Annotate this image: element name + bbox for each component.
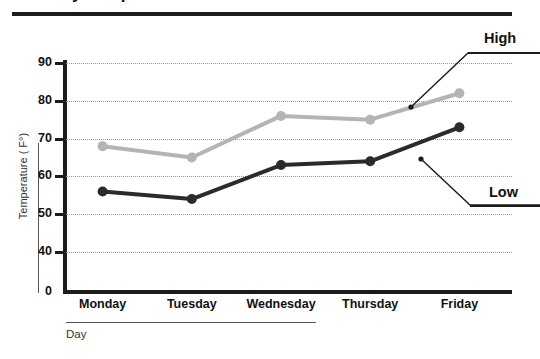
- chart-container: Daily Temperatures Temperature ( F°) 908…: [0, 0, 540, 359]
- callout-low-underline: [470, 205, 540, 207]
- callout-leader-low: [421, 159, 540, 205]
- callout-leader-high: [411, 53, 540, 107]
- callout-leader-low-anchor-dot: [418, 156, 423, 161]
- callout-leader-lines: [0, 0, 540, 359]
- callout-leader-high-anchor-dot: [408, 104, 413, 109]
- callout-label-low: Low: [489, 184, 518, 200]
- callout-label-high: High: [484, 30, 516, 46]
- callout-high-underline: [468, 52, 540, 54]
